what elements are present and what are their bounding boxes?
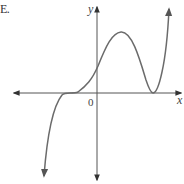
y-axis-label: y — [87, 2, 94, 16]
origin-label: 0 — [88, 96, 94, 108]
x-axis-label: x — [176, 93, 183, 107]
polynomial-graph: y x 0 — [0, 0, 184, 184]
